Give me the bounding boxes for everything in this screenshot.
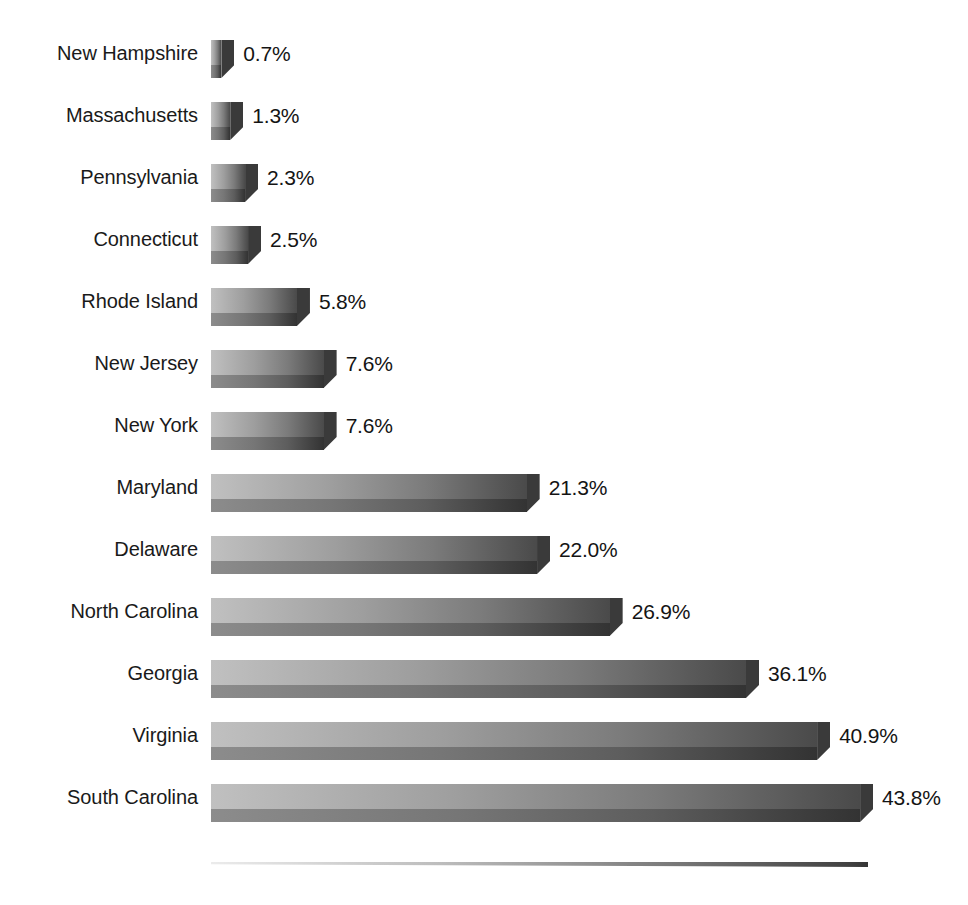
bar-row: New Hampshire0.7% [0, 40, 968, 102]
bar-end-cap [610, 598, 623, 636]
value-label: 36.1% [768, 663, 827, 684]
category-label: New York [0, 415, 198, 435]
category-label: North Carolina [0, 601, 198, 621]
bar-row: Pennsylvania2.3% [0, 164, 968, 226]
value-label: 40.9% [839, 725, 898, 746]
value-label: 22.0% [559, 539, 618, 560]
category-label: Georgia [0, 663, 198, 683]
bar-shadow-face [211, 809, 860, 822]
bar-chart: New Hampshire0.7%Massachusetts1.3%Pennsy… [0, 0, 968, 905]
bar-end-cap [860, 784, 873, 822]
bar-end-cap [537, 536, 550, 574]
bar [211, 350, 324, 394]
bar-shadow-face [211, 437, 324, 450]
bar-face [211, 722, 817, 747]
bar-row: South Carolina43.8% [0, 784, 968, 846]
value-label: 7.6% [346, 415, 393, 436]
bar-shadow-face [211, 65, 221, 78]
bar-face [211, 350, 324, 375]
bar [211, 164, 245, 208]
bar-end-cap [324, 412, 337, 450]
category-label: Massachusetts [0, 105, 198, 125]
bar-shadow-face [211, 313, 297, 326]
category-label: Delaware [0, 539, 198, 559]
bar-shadow-face [211, 747, 817, 760]
bar [211, 722, 817, 766]
bar [211, 660, 746, 704]
bar-face [211, 598, 610, 623]
value-label: 7.6% [346, 353, 393, 374]
value-label: 2.5% [270, 229, 317, 250]
bar-end-cap [221, 40, 234, 78]
category-label: Maryland [0, 477, 198, 497]
bar [211, 784, 860, 828]
bar [211, 226, 248, 270]
value-label: 43.8% [882, 787, 941, 808]
bar-face [211, 536, 537, 561]
value-label: 5.8% [319, 291, 366, 312]
bar-end-cap [230, 102, 243, 140]
bar [211, 412, 324, 456]
bar-row: Georgia36.1% [0, 660, 968, 722]
value-label: 26.9% [632, 601, 691, 622]
bar-shadow-face [211, 623, 610, 636]
bar-row: New Jersey7.6% [0, 350, 968, 412]
bar-face [211, 474, 527, 499]
bar [211, 40, 221, 84]
bar-row: Connecticut2.5% [0, 226, 968, 288]
bar-face [211, 40, 221, 65]
bar-end-cap [297, 288, 310, 326]
bar-row: Virginia40.9% [0, 722, 968, 784]
bar-shadow-face [211, 499, 527, 512]
category-label: Pennsylvania [0, 167, 198, 187]
bar [211, 288, 297, 332]
bar-end-cap [817, 722, 830, 760]
category-label: New Hampshire [0, 43, 198, 63]
value-label: 21.3% [549, 477, 608, 498]
bar-end-cap [248, 226, 261, 264]
bar-face [211, 660, 746, 685]
bar-face [211, 784, 860, 809]
bar-shadow-face [211, 189, 245, 202]
category-label: Rhode Island [0, 291, 198, 311]
category-label: Connecticut [0, 229, 198, 249]
bar-shadow-face [211, 685, 746, 698]
category-label: New Jersey [0, 353, 198, 373]
bar-row: Delaware22.0% [0, 536, 968, 598]
value-label: 2.3% [267, 167, 314, 188]
bar-shadow-face [211, 251, 248, 264]
bar-row: Massachusetts1.3% [0, 102, 968, 164]
bar-face [211, 288, 297, 313]
bar-row: New York7.6% [0, 412, 968, 474]
bar-end-cap [245, 164, 258, 202]
bar-end-cap [527, 474, 540, 512]
bar-shadow-face [211, 561, 537, 574]
bar-end-cap [324, 350, 337, 388]
value-label: 1.3% [252, 105, 299, 126]
category-label: Virginia [0, 725, 198, 745]
category-label: South Carolina [0, 787, 198, 807]
plot-area: New Hampshire0.7%Massachusetts1.3%Pennsy… [0, 0, 968, 905]
bar-shadow-face [211, 375, 324, 388]
bar [211, 598, 610, 642]
bar-row: North Carolina26.9% [0, 598, 968, 660]
bar-face [211, 226, 248, 251]
bar-end-cap [746, 660, 759, 698]
bar-shadow-face [211, 127, 230, 140]
bar-face [211, 102, 230, 127]
bar-row: Maryland21.3% [0, 474, 968, 536]
bar-row: Rhode Island5.8% [0, 288, 968, 350]
bar [211, 102, 230, 146]
bar-face [211, 164, 245, 189]
bar [211, 536, 537, 580]
value-label: 0.7% [243, 43, 290, 64]
bar [211, 474, 527, 518]
bar-face [211, 412, 324, 437]
